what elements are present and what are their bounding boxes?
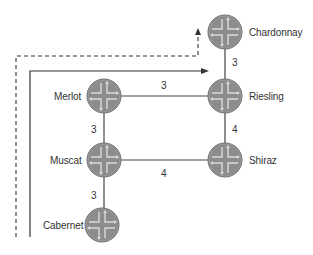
metric-chardonnay-riesling: 3	[232, 57, 238, 69]
router-chardonnay[interactable]	[208, 15, 242, 49]
metric-riesling-shiraz: 4	[232, 124, 238, 136]
router-label-chardonnay: Chardonnay	[249, 27, 302, 39]
router-label-muscat: Muscat	[50, 155, 82, 167]
metric-merlot-muscat: 3	[91, 124, 97, 136]
router-label-riesling: Riesling	[249, 91, 284, 103]
router-shiraz[interactable]	[208, 143, 242, 177]
router-label-cabernet: Cabernet	[43, 220, 83, 232]
router-muscat[interactable]	[87, 143, 121, 177]
metric-muscat-shiraz: 4	[161, 168, 167, 180]
router-merlot[interactable]	[87, 79, 121, 113]
router-cabernet[interactable]	[85, 208, 119, 242]
network-diagram: Chardonnay Riesling Merlot Muscat Shiraz…	[0, 0, 313, 255]
links	[104, 49, 225, 209]
dashed-path	[16, 28, 201, 237]
arrow-up-icon	[195, 28, 201, 35]
router-riesling[interactable]	[208, 79, 242, 113]
router-label-shiraz: Shiraz	[249, 155, 277, 167]
metric-muscat-cabernet: 3	[91, 190, 97, 202]
router-label-merlot: Merlot	[54, 91, 81, 103]
arrow-right-icon	[201, 68, 209, 74]
metric-merlot-riesling: 3	[161, 80, 167, 92]
